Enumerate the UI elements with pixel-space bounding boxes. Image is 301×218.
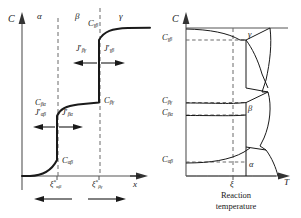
j-sub: βα — [68, 111, 73, 117]
left-y-axis — [19, 12, 26, 190]
c-sub: βγ — [110, 99, 114, 105]
gamma-right-lobe — [262, 28, 271, 92]
span-arrowhead-left — [34, 196, 44, 202]
flux-arrowhead-beta-gamma-right — [115, 60, 125, 66]
xi-sub: αβ — [56, 184, 61, 189]
c-sub: γβ — [94, 22, 98, 28]
left-axis-y-label: C — [8, 14, 15, 24]
right-label-c-gamma-beta: Cγβ — [162, 33, 172, 43]
right-panel-caption: Reaction temperature — [188, 190, 284, 211]
flux-arrowhead-beta-gamma-left — [73, 60, 83, 66]
right-tick-label-xi: ξ — [230, 180, 234, 189]
left-label-c-gamma-beta: Cγβ — [88, 19, 98, 29]
left-label-flux-beta-gamma: J′βγ — [76, 44, 86, 54]
left-label-c-beta-gamma: Cβγ — [104, 96, 114, 106]
j-sub: αβ — [41, 111, 46, 117]
left-tick-label-xi-alpha-beta: ξ*αβ — [50, 180, 61, 190]
caption-line-2: temperature — [188, 201, 284, 212]
right-panel-group — [183, 12, 290, 180]
c-sub: βγ — [168, 99, 172, 105]
left-phase-label-alpha: α — [37, 12, 42, 21]
c-sub: βα — [41, 101, 46, 107]
caption-line-1: Reaction — [188, 190, 284, 201]
left-tick-label-xi-beta-gamma: ξ*βγ — [92, 180, 102, 190]
alpha-right-curve — [266, 150, 278, 176]
left-axis-x-label: x — [133, 180, 137, 189]
left-phase-label-beta: β — [75, 12, 79, 21]
right-label-c-beta-alpha: Cβα — [162, 108, 173, 118]
right-axis-y-label: C — [172, 14, 179, 24]
right-axis-x-label: T — [284, 178, 289, 187]
gamma-lower-cusp — [246, 88, 268, 92]
beta-lower-cusp — [246, 146, 266, 150]
flux-arrows-beta-gamma — [80, 52, 118, 74]
flux-arrowhead-alpha-beta-left — [33, 124, 43, 130]
j-sub: γβ — [110, 47, 114, 53]
left-label-flux-gamma-beta: J′γβ — [104, 44, 114, 54]
beta-phase-upper-boundary — [186, 103, 246, 104]
beta-right-lobe — [260, 92, 270, 146]
left-label-flux-alpha-beta: J′αβ — [35, 108, 46, 118]
gamma-phase-boundary — [186, 29, 246, 40]
xi-sub: βγ — [98, 184, 102, 189]
flux-arrowhead-alpha-beta-right — [73, 124, 83, 130]
c-sub: αβ — [168, 158, 173, 164]
beta-upper-right-wing — [246, 92, 268, 103]
right-phase-label-gamma: γ — [248, 30, 251, 39]
span-arrowhead-right — [116, 196, 126, 202]
right-label-c-beta-gamma: Cβγ — [162, 96, 172, 106]
beta-phase-lower-boundary — [186, 115, 246, 116]
right-phase-label-alpha: α — [249, 160, 253, 169]
gamma-liquidus-curve — [246, 40, 268, 88]
c-sub: αβ — [68, 159, 73, 165]
right-y-axis — [183, 12, 190, 176]
right-phase-label-beta: β — [248, 104, 252, 113]
left-label-c-alpha-beta: Cαβ — [62, 156, 73, 166]
figure-root: C x α β γ Cγβ Cβγ Cβα Cαβ J′βγ J′γβ J′αβ… — [0, 0, 301, 218]
alpha-phase-boundary — [186, 148, 250, 163]
c-sub: γβ — [168, 36, 172, 42]
c-sub: βα — [168, 111, 173, 117]
j-sub: βγ — [82, 47, 86, 53]
left-phase-label-gamma: γ — [119, 12, 123, 21]
left-label-flux-beta-alpha: J′βα — [62, 108, 73, 118]
right-label-c-alpha-beta: Cαβ — [162, 155, 173, 165]
